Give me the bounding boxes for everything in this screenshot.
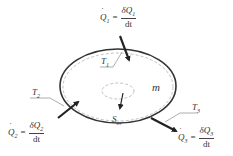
q3-symbol: Q3 [178,132,188,144]
q3-fraction: δQ3 dt [199,126,215,149]
q1-symbol: Q1 [100,12,110,24]
heat-flow-q3-arrow [151,118,176,131]
q1-fraction: δQ1 dt [121,6,137,29]
equals-sign: = [113,12,118,22]
system-mass-label: m [152,82,160,93]
entropy-generation-loop [102,83,134,99]
entropy-generation-arrow [120,93,123,108]
temperature-label-t1: T1 [101,57,109,68]
heat-flow-q1-equation: Q1 = δQ1 dt [100,6,136,29]
q2-symbol: Q2 [8,127,18,139]
heat-flow-q2-equation: Q2 = δQ2 dt [8,121,44,144]
t2-leader-line [30,98,64,106]
equals-sign: = [191,132,196,142]
heat-flow-q3-equation: Q3 = δQ3 dt [178,126,214,149]
entropy-generation-label: Sirr [112,115,122,126]
temperature-label-t3: T3 [192,103,200,114]
t3-leader-line [165,113,198,122]
temperature-label-t2: T2 [32,88,40,99]
heat-flow-q1-arrow [120,36,129,60]
equals-sign: = [21,127,26,137]
q2-fraction: δQ2 dt [29,121,45,144]
